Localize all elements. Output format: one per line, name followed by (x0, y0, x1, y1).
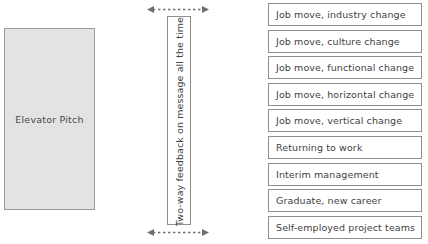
dashed-double-arrow-bottom-icon (147, 228, 209, 237)
option-label: Job move, vertical change (276, 115, 402, 126)
option-label: Job move, horizontal change (276, 89, 414, 100)
option-label: Job move, functional change (276, 62, 414, 73)
option-box[interactable]: Job move, culture change (268, 30, 422, 53)
elevator-pitch-box: Elevator Pitch (4, 28, 95, 210)
dashed-double-arrow-top-icon (147, 5, 209, 14)
option-box[interactable]: Self-employed project teams (268, 216, 422, 239)
option-box[interactable]: Job move, vertical change (268, 109, 422, 132)
option-box[interactable]: Job move, horizontal change (268, 83, 422, 106)
option-box[interactable]: Graduate, new career (268, 189, 422, 212)
option-label: Returning to work (276, 142, 362, 153)
two-way-feedback-label: Two-way feedback on message all the time (168, 17, 190, 226)
option-label: Job move, industry change (276, 9, 406, 20)
option-box[interactable]: Returning to work (268, 136, 422, 159)
option-label: Self-employed project teams (276, 222, 415, 233)
elevator-pitch-label: Elevator Pitch (15, 114, 83, 125)
option-box[interactable]: Job move, functional change (268, 56, 422, 79)
career-option-list: Job move, industry change Job move, cult… (268, 3, 422, 242)
two-way-feedback-bar: Two-way feedback on message all the time (167, 16, 191, 225)
option-label: Interim management (276, 169, 379, 180)
option-box[interactable]: Job move, industry change (268, 3, 422, 26)
option-box[interactable]: Interim management (268, 163, 422, 186)
option-label: Graduate, new career (276, 195, 382, 206)
option-label: Job move, culture change (276, 36, 400, 47)
